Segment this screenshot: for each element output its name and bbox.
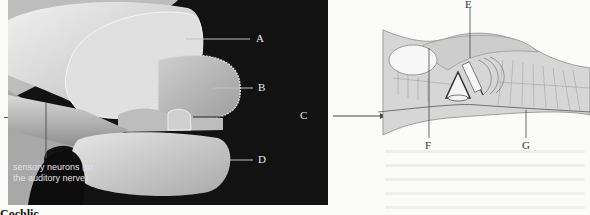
caption-text: Cochlic... [0,207,48,215]
sensory-neurons-label: sensory neurons (to the auditory nerve) [13,162,93,183]
label-b: B [258,81,265,93]
label-e: E [465,0,472,10]
cochlea-photo-panel: A B D C sensory neurons (to the auditory… [8,0,328,205]
label-d: D [258,153,266,165]
figure-caption: Cochlic... [0,207,110,215]
label-a: A [256,32,264,44]
label-c: C [300,109,307,121]
bleed-through-texture [385,150,585,210]
